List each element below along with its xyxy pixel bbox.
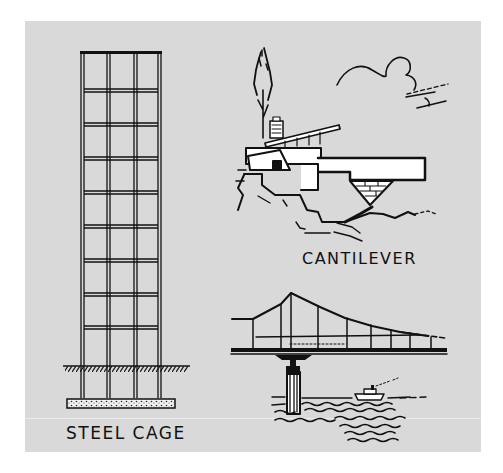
illustration-canvas: [0, 0, 503, 473]
steel-cage-caption: STEEL CAGE: [66, 423, 186, 443]
cantilever-drawing: [236, 48, 448, 241]
bridge-drawing: [231, 293, 447, 442]
steel-cage-drawing: [63, 51, 190, 408]
cantilever-caption: CANTILEVER: [302, 249, 417, 268]
